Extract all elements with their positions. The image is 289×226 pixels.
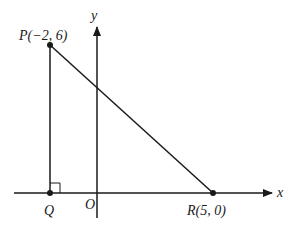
point-q	[47, 190, 53, 196]
segment-pr	[50, 45, 213, 193]
point-r	[210, 190, 216, 196]
label-q: Q	[44, 203, 54, 218]
label-r: R(5, 0)	[186, 203, 226, 219]
label-origin: O	[85, 197, 95, 212]
label-x-axis: x	[276, 185, 284, 200]
coordinate-diagram: P(−2, 6) Q O R(5, 0) x y	[0, 0, 289, 226]
label-y-axis: y	[89, 8, 98, 23]
label-p: P(−2, 6)	[18, 28, 68, 44]
